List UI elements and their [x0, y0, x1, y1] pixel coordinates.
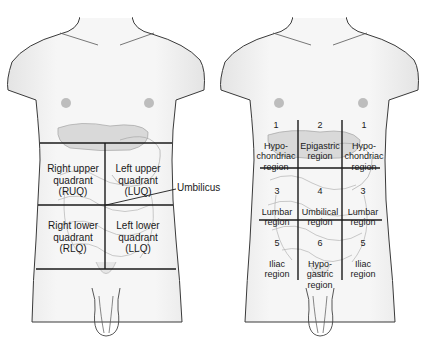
- region-number: 1: [342, 120, 386, 131]
- region-name: Lumbar region: [342, 207, 384, 228]
- region-name: Hypo- gastric region: [298, 259, 342, 291]
- region-1-left-hypochondriac: 1 Hypo- chondriac region: [342, 109, 386, 183]
- region-2-epigastric: 2 Epigastric region: [298, 109, 342, 172]
- region-number: 3: [342, 186, 384, 197]
- label-umbilicus: Umbilicus: [177, 182, 220, 193]
- label-luq: Left upper quadrant (LUQ): [107, 163, 169, 198]
- nipple-left: [358, 98, 368, 108]
- region-name: Hypo- chondriac region: [254, 141, 298, 173]
- region-number: 3: [256, 186, 298, 197]
- region-5-right-iliac: 5 Iliac region: [256, 227, 298, 290]
- region-number: 5: [256, 238, 298, 249]
- region-number: 1: [254, 120, 298, 131]
- label-llq: Left lower quadrant (LLQ): [107, 220, 169, 255]
- region-6-hypogastric: 6 Hypo- gastric region: [298, 227, 342, 301]
- region-5-left-iliac: 5 Iliac region: [342, 227, 384, 290]
- region-name: Iliac region: [256, 259, 298, 280]
- region-name: Epigastric region: [298, 141, 342, 162]
- region-name: Iliac region: [342, 259, 384, 280]
- region-name: Hypo- chondriac region: [342, 141, 386, 173]
- region-number: 2: [298, 120, 342, 131]
- nipple-right: [61, 98, 71, 108]
- region-name: Umbilical region: [298, 207, 342, 228]
- torso-left: [8, 17, 205, 336]
- region-name: Lumbar region: [256, 207, 298, 228]
- region-number: 5: [342, 238, 384, 249]
- label-ruq: Right upper quadrant (RUQ): [42, 163, 104, 198]
- region-number: 6: [298, 238, 342, 249]
- nipple-left: [144, 98, 154, 108]
- region-number: 4: [298, 186, 342, 197]
- nipple-right: [274, 98, 284, 108]
- label-rlq: Right lower quadrant (RLQ): [42, 220, 104, 255]
- torso-outline: [8, 17, 205, 322]
- region-1-right-hypochondriac: 1 Hypo- chondriac region: [254, 109, 298, 183]
